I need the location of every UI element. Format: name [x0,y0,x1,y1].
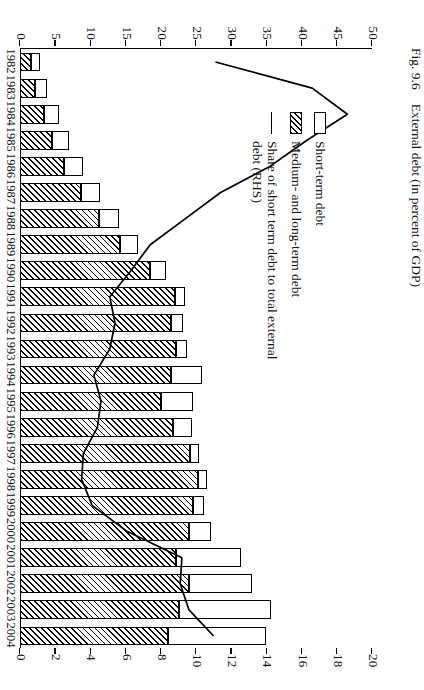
figure: Fig. 9.6External debt (in percent of GDP… [0,0,424,690]
category-label: 1989 [4,231,18,256]
category-label: 1984 [4,101,18,126]
figure-number: Fig. 9.6 [409,48,424,90]
primary-y-axis-tick-mark [195,40,196,46]
category-label: 1998 [4,466,18,491]
category-label: 1991 [4,283,18,308]
chart-legend: Short-term debtMedium- and long-term deb… [241,112,328,362]
primary-y-axis-tick-label: 15 [120,27,134,40]
category-label: 1990 [4,257,18,282]
secondary-y-axis-tick-label: 8 [155,654,169,661]
primary-y-axis-tick-label: 40 [296,27,310,40]
category-label: 2003 [4,596,18,621]
primary-y-axis-tick-mark [230,40,231,46]
category-label: 2000 [4,518,18,543]
secondary-y-axis-tick-label: 10 [190,654,204,667]
category-label: 1992 [4,309,18,334]
secondary-y-axis-tick-label: 16 [296,654,310,667]
primary-y-axis-tick-mark [266,40,267,46]
secondary-y-axis-tick-label: 0 [14,654,28,661]
category-label: 1994 [4,362,18,387]
primary-y-axis-tick-mark [336,40,337,46]
category-label: 1987 [4,179,18,204]
legend-item[interactable]: Short-term debt [313,112,328,362]
primary-y-axis-tick-mark [54,40,55,46]
primary-y-axis-tick-mark [125,40,126,46]
primary-y-axis-tick-mark [19,40,20,46]
legend-swatch-open-square [314,112,326,134]
secondary-y-axis-tick-label: 20 [366,654,380,667]
primary-y-axis-tick-label: 30 [225,27,239,40]
primary-y-axis-tick-mark [371,40,372,46]
category-label: 1993 [4,336,18,361]
category-label: 1996 [4,414,18,439]
legend-label: Share of short term debt to total extern… [250,141,280,362]
primary-y-axis-tick-mark [160,40,161,46]
primary-y-axis-tick-label: 5 [49,33,63,40]
primary-y-axis-tick-label: 0 [14,33,28,40]
secondary-y-axis-tick-label: 2 [49,654,63,661]
category-label: 1982 [4,49,18,74]
secondary-y-axis-tick-label: 18 [331,654,345,667]
category-label: 1986 [4,153,18,178]
primary-y-axis-tick-label: 20 [155,27,169,40]
category-label: 2001 [4,544,18,569]
primary-y-axis-tick-label: 25 [190,27,204,40]
legend-label: Medium- and long-term debt [289,141,304,297]
category-label: 1985 [4,127,18,152]
category-label: 2004 [4,622,18,647]
category-label: 1997 [4,440,18,465]
primary-y-axis-tick-label: 45 [331,27,345,40]
primary-y-axis-tick-label: 50 [366,27,380,40]
secondary-y-axis-tick-label: 12 [225,654,239,667]
legend-item[interactable]: Medium- and long-term debt [289,112,304,362]
primary-y-axis-tick-mark [90,40,91,46]
legend-item[interactable]: Share of short term debt to total extern… [250,112,280,362]
secondary-y-axis: 02468101214161820 [20,648,372,690]
category-axis-labels: 1982198319841985198619871988198919901991… [0,48,18,648]
legend-swatch-line [271,112,272,134]
secondary-y-axis-tick-label: 14 [260,654,274,667]
category-label: 1988 [4,205,18,230]
primary-y-axis: 05101520253035404550 [20,0,372,46]
rotated-figure-container: Fig. 9.6External debt (in percent of GDP… [0,0,424,690]
primary-y-axis-tick-mark [301,40,302,46]
secondary-y-axis-tick-label: 6 [120,654,134,661]
legend-label: Short-term debt [313,141,328,226]
primary-y-axis-tick-label: 10 [84,27,98,40]
category-label: 1995 [4,388,18,413]
secondary-y-axis-tick-label: 4 [84,654,98,661]
category-label: 1983 [4,75,18,100]
figure-title: External debt (in percent of GDP) [409,104,424,287]
figure-caption: Fig. 9.6External debt (in percent of GDP… [408,48,424,668]
primary-y-axis-tick-label: 35 [260,27,274,40]
category-label: 2002 [4,570,18,595]
legend-swatch-hatched-square [290,112,302,134]
category-label: 1999 [4,492,18,517]
